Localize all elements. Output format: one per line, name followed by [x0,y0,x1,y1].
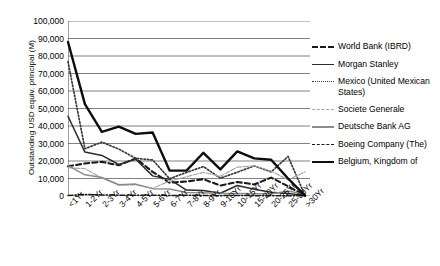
legend-item[interactable]: Boeing Company (The) [312,139,440,150]
y-axis-tick-labels: 010,00020,00030,00040,00050,00060,00070,… [0,21,64,196]
y-tick-label: 30,000 [38,139,64,149]
y-tick-label: 40,000 [38,121,64,131]
legend-item[interactable]: Mexico (United Mexican States) [312,76,440,97]
legend-item[interactable]: World Bank (IBRD) [312,41,440,52]
y-tick-label: 50,000 [38,104,64,114]
legend-item[interactable]: Societe Generale [312,104,440,115]
legend-label: Societe Generale [338,104,404,115]
legend: World Bank (IBRD)Morgan StanleyMexico (U… [312,41,440,174]
legend-label: Mexico (United Mexican States) [338,76,440,97]
legend-label: World Bank (IBRD) [338,41,411,52]
y-tick-label: 10,000 [38,174,64,184]
legend-item[interactable]: Deutsche Bank AG [312,121,440,132]
y-tick-label: 90,000 [38,34,64,44]
legend-label: Deutsche Bank AG [338,121,411,132]
y-tick-label: 80,000 [38,51,64,61]
y-tick-label: 60,000 [38,86,64,96]
legend-swatch [312,76,334,87]
legend-label: Belgium, Kingdom of [338,156,417,167]
legend-swatch [312,59,334,70]
legend-item[interactable]: Belgium, Kingdom of [312,156,440,167]
legend-swatch [312,156,334,167]
legend-item[interactable]: Morgan Stanley [312,59,440,70]
y-tick-label: 100,000 [33,16,64,26]
legend-label: Boeing Company (The) [338,139,427,150]
legend-swatch [312,121,334,132]
x-axis-tick-labels: <1Yr1-2Yr2-3Yr3-4Yr4-5Yr5-6Yr6-7Yr7-8Yr8… [68,199,305,259]
series-line [68,62,305,196]
series-lines [68,21,305,196]
legend-swatch [312,41,334,52]
y-tick-label: 0 [59,191,64,201]
legend-swatch [312,139,334,150]
legend-label: Morgan Stanley [338,59,398,70]
legend-swatch [312,104,334,115]
y-tick-label: 20,000 [38,156,64,166]
y-tick-label: 70,000 [38,69,64,79]
plot-area [68,21,305,196]
chart-container: Outstanding USD equiv. principal (M) 010… [0,0,440,266]
